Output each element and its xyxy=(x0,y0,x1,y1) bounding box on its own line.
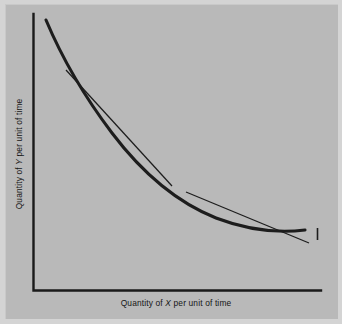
y-axis-label-suffix: per unit of time xyxy=(14,98,24,158)
tangent-line-lower xyxy=(186,192,309,243)
figure-root: Quantity of X per unit of time Quantity … xyxy=(0,0,342,324)
main-curve xyxy=(46,20,305,231)
x-axis-label-prefix: Quantity of xyxy=(121,298,166,308)
x-axis-label-suffix: per unit of time xyxy=(171,298,231,308)
y-axis-label: Quantity of Y per unit of time xyxy=(14,98,24,209)
y-axis-label-prefix: Quantity of xyxy=(14,165,24,210)
x-axis-label: Quantity of X per unit of time xyxy=(121,298,232,308)
tangent-line-upper xyxy=(66,70,172,186)
chart-svg: Quantity of X per unit of time Quantity … xyxy=(0,0,342,324)
axes-lines xyxy=(34,14,322,291)
